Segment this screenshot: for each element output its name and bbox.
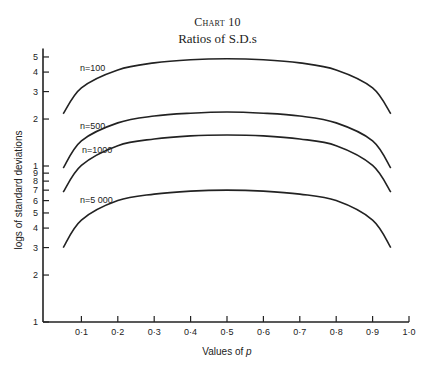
x-tick-label: 0·9	[366, 327, 379, 337]
x-tick-label: 0·5	[220, 327, 233, 337]
x-tick-label: 0·1	[75, 327, 88, 337]
x-tick-label: 0·4	[184, 327, 197, 337]
curve-label: n=1000	[82, 145, 112, 155]
axes: 123456789123450·10·20·30·40·50·60·70·80·…	[33, 49, 416, 337]
y-tick-label: 5	[33, 208, 38, 218]
y-tick-label: 3	[33, 87, 38, 97]
curves	[63, 59, 391, 248]
curve-n100	[63, 59, 391, 114]
curve-label: n=100	[80, 63, 105, 73]
y-tick-label: 4	[33, 67, 38, 77]
y-axis-label: logs of standard deviations	[13, 131, 24, 250]
y-tick-label: 1	[33, 161, 38, 171]
y-tick-label: 1	[33, 317, 38, 327]
y-tick-label: 2	[33, 270, 38, 280]
x-tick-label: 0·7	[293, 327, 306, 337]
x-axis-label: Values of p	[202, 346, 252, 357]
chart-plot: 123456789123450·10·20·30·40·50·60·70·80·…	[0, 0, 435, 368]
x-tick-label: 1·0	[402, 327, 415, 337]
curve-n500	[63, 112, 391, 168]
x-tick-label: 0·2	[111, 327, 124, 337]
y-tick-label: 7	[33, 185, 38, 195]
y-tick-label: 6	[33, 196, 38, 206]
y-tick-label: 2	[33, 114, 38, 124]
y-tick-label: 3	[33, 243, 38, 253]
curve-label: n=500	[80, 121, 105, 131]
x-tick-label: 0·6	[257, 327, 270, 337]
curve-label: n=5 000	[80, 195, 113, 205]
x-tick-label: 0·3	[148, 327, 161, 337]
curve-n1000	[63, 135, 391, 192]
y-tick-label: 5	[33, 52, 38, 62]
x-tick-label: 0·8	[330, 327, 343, 337]
y-tick-label: 4	[33, 223, 38, 233]
